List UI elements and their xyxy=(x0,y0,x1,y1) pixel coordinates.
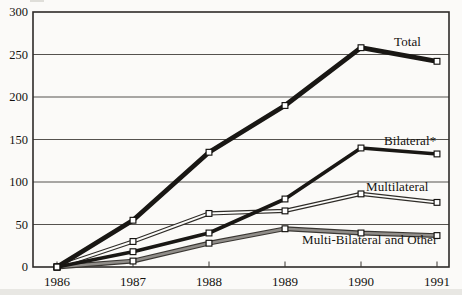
series-label-bilateral: Bilateral* xyxy=(384,134,436,148)
data-point-marker xyxy=(282,208,288,214)
x-axis-label: 1989 xyxy=(272,274,298,289)
y-axis-label: 250 xyxy=(9,48,28,62)
series-label-multi-bilateral-and-other: Multi-Bilateral and Other xyxy=(302,233,437,247)
y-axis-label: 50 xyxy=(16,218,29,232)
series-label-total: Total xyxy=(394,35,421,49)
x-axis-label: 1991 xyxy=(424,274,450,289)
x-axis-label: 1988 xyxy=(196,274,222,289)
x-axis-label: 1987 xyxy=(120,274,147,289)
data-point-marker xyxy=(54,264,60,270)
data-point-marker xyxy=(206,149,212,155)
y-axis-label: 150 xyxy=(9,133,28,147)
data-point-marker xyxy=(282,103,288,109)
data-point-marker xyxy=(358,145,364,151)
data-point-marker xyxy=(206,211,212,217)
data-point-marker xyxy=(434,200,440,206)
data-point-marker xyxy=(130,258,136,264)
data-point-marker xyxy=(130,239,136,245)
data-point-marker xyxy=(282,226,288,232)
series-label-multilateral: Multilateral xyxy=(366,180,429,194)
data-point-marker xyxy=(282,196,288,202)
scan-artifact xyxy=(0,289,462,295)
data-point-marker xyxy=(358,45,364,51)
x-axis-label: 1986 xyxy=(44,274,71,289)
data-point-marker xyxy=(434,151,440,157)
data-point-marker xyxy=(130,249,136,255)
y-axis-label: 0 xyxy=(22,260,28,274)
data-point-marker xyxy=(434,58,440,64)
y-axis-label: 300 xyxy=(9,5,28,19)
y-axis-label: 200 xyxy=(9,90,28,104)
line-chart-figure: 0501001502002503001986198719881989199019… xyxy=(0,0,462,295)
data-point-marker xyxy=(206,230,212,236)
x-axis-label: 1990 xyxy=(348,274,374,289)
data-point-marker xyxy=(358,191,364,197)
data-point-marker xyxy=(206,240,212,246)
y-axis-label: 100 xyxy=(9,175,28,189)
data-point-marker xyxy=(130,217,136,223)
